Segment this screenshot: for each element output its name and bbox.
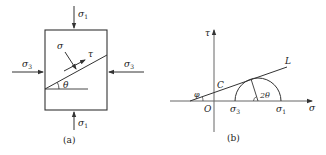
svg-text:σ1: σ1: [276, 104, 286, 115]
mohr-circle: [235, 78, 281, 101]
svg-text:σ: σ: [57, 41, 64, 51]
caption-a: (a): [63, 135, 75, 145]
specimen-box: [45, 30, 107, 110]
theta-arc: [57, 82, 59, 89]
mohr-coulomb-figure: σ1 σ1 σ3 σ3 θ σ τ (a) τ σ O: [0, 0, 326, 155]
svg-text:L: L: [284, 56, 291, 66]
svg-text:2θ: 2θ: [259, 91, 270, 100]
panel-a: σ1 σ1 σ3 σ3 θ σ τ (a): [12, 6, 144, 145]
svg-text:θ: θ: [63, 80, 69, 90]
svg-text:σ1: σ1: [78, 9, 88, 20]
cohesion-label: C: [217, 80, 224, 90]
svg-text:φ: φ: [194, 90, 200, 99]
svg-text:σ3: σ3: [22, 59, 32, 70]
svg-text:σ3: σ3: [230, 104, 240, 115]
panel-b: τ σ O L 2θ φ C σ3 σ1 (b): [170, 28, 316, 143]
two-theta-arc: [253, 97, 256, 101]
strength-envelope: [190, 67, 287, 101]
phi-arc: [202, 97, 203, 101]
svg-text:τ: τ: [88, 49, 94, 59]
svg-text:σ1: σ1: [78, 118, 88, 129]
caption-b: (b): [227, 133, 240, 143]
svg-text:τ: τ: [205, 28, 211, 38]
origin-label: O: [204, 104, 212, 114]
normal-stress-arrow: [65, 52, 76, 69]
svg-text:σ: σ: [309, 103, 316, 113]
svg-text:σ3: σ3: [124, 59, 134, 70]
failure-plane: [45, 55, 107, 89]
